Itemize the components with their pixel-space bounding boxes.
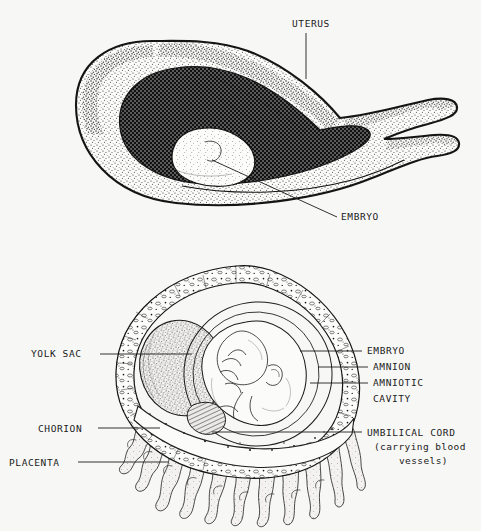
label-embryo-lower-text: EMBRYO — [367, 345, 405, 356]
figure-fetal-membranes: YOLK SAC CHORION PLACENTA EMBRYO AMNION — [0, 250, 481, 531]
diagram-page: UTERUS EMBRYO — [0, 0, 481, 531]
label-uterus-text: UTERUS — [292, 18, 330, 29]
label-placenta-text: PLACENTA — [9, 457, 60, 468]
label-umbilical-cord-text-line2: (carrying blood — [374, 441, 466, 452]
label-yolk-sac-text: YOLK SAC — [31, 348, 82, 359]
label-embryo-text: EMBRYO — [341, 211, 379, 222]
figure-uterus-section: UTERUS EMBRYO — [0, 0, 481, 250]
label-chorion-text: CHORION — [38, 423, 82, 434]
label-amniotic-cavity-text: AMNIOTIC — [373, 377, 424, 388]
label-amnion-text: AMNION — [373, 361, 411, 372]
label-amniotic-cavity-text-line2: CAVITY — [373, 393, 411, 404]
label-umbilical-cord-text: UMBILICAL CORD — [367, 427, 455, 438]
label-umbilical-cord-text-line3: vessels) — [399, 455, 448, 466]
